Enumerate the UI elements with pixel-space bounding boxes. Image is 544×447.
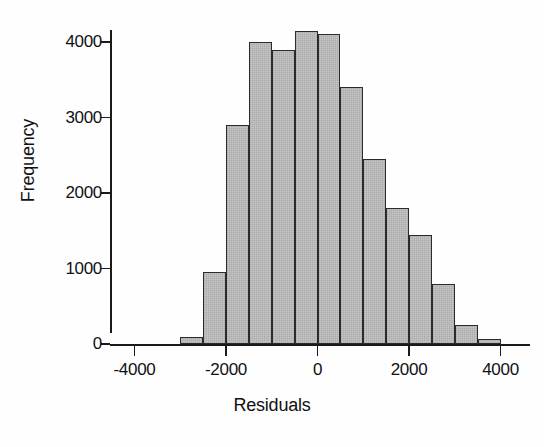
histogram-bar	[318, 34, 341, 344]
x-axis-title: Residuals	[0, 395, 544, 416]
x-axis-tick-label: -2000	[205, 360, 247, 380]
histogram-bar	[363, 159, 386, 344]
histogram-bar	[249, 42, 272, 344]
histogram-bar	[295, 31, 318, 344]
y-axis-tick-label: 2000	[0, 183, 102, 203]
histogram-bar	[272, 50, 295, 344]
y-axis-tick-label: 0	[0, 334, 102, 354]
x-axis-tick-label: -4000	[114, 360, 156, 380]
x-axis-tick-label: 2000	[391, 360, 428, 380]
y-axis-title: Frequency	[18, 71, 39, 251]
x-axis-tick-label: 0	[313, 360, 322, 380]
y-axis-tick	[101, 268, 110, 270]
histogram-bar	[180, 337, 203, 344]
histogram-bar	[203, 272, 226, 344]
histogram-bar	[386, 208, 409, 344]
histogram-bar	[226, 125, 249, 344]
y-axis-tick-label: 3000	[0, 108, 102, 128]
x-axis-tick	[500, 345, 502, 356]
x-axis-tick	[408, 345, 410, 356]
y-axis-tick-label: 1000	[0, 259, 102, 279]
x-axis-tick	[317, 345, 319, 356]
y-axis-tick	[101, 117, 110, 119]
y-axis-tick	[101, 343, 110, 345]
histogram-bar	[478, 339, 501, 344]
x-axis-line	[110, 344, 530, 346]
histogram-bar	[455, 325, 478, 344]
histogram-figure: 01000200030004000 -4000-2000020004000 Re…	[0, 0, 544, 447]
y-axis-tick-label: 4000	[0, 32, 102, 52]
histogram-bar	[340, 87, 363, 344]
histogram-bar	[432, 284, 455, 344]
x-axis-tick	[134, 345, 136, 356]
x-axis-tick-label: 4000	[482, 360, 519, 380]
x-axis-tick	[225, 345, 227, 356]
plot-area: 01000200030004000 -4000-2000020004000 Re…	[0, 0, 544, 447]
y-axis-tick	[101, 192, 110, 194]
y-axis-line	[110, 30, 112, 333]
y-axis-tick	[101, 41, 110, 43]
histogram-bar	[409, 235, 432, 344]
y-axis-title-host: Frequency	[0, 0, 1, 1]
